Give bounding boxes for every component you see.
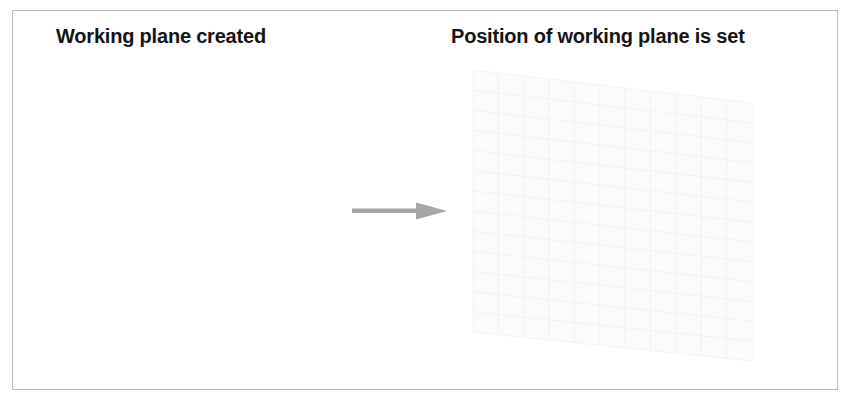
figure-page: empty white area Working plane created f… bbox=[0, 0, 850, 404]
arrow-right-icon bbox=[350, 196, 450, 226]
caption-position-of-working-plane-is-set: Position of working plane is set bbox=[451, 24, 745, 48]
working-plane bbox=[455, 55, 775, 380]
panel-working-plane-created: empty white area bbox=[12, 10, 352, 390]
transition-arrow bbox=[350, 196, 450, 226]
panel-left-description: empty white area bbox=[12, 10, 13, 11]
caption-working-plane-created: Working plane created bbox=[56, 24, 266, 48]
panel-right-description: faint grey perspective grid of the worki… bbox=[440, 10, 441, 11]
working-plane-grid bbox=[455, 55, 775, 380]
